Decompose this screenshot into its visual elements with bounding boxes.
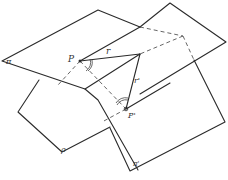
plane-pi — [2, 10, 140, 89]
plane-rho — [18, 80, 138, 170]
angle-arc-p-prime — [117, 100, 128, 105]
label-plane-rho: ρ — [60, 145, 66, 154]
label-p: P — [67, 54, 75, 64]
label-r: r — [106, 46, 111, 56]
geometry-diagram: P P' r r' π ρ π' — [0, 0, 228, 180]
point-p-dot — [79, 60, 82, 63]
label-r-prime: r' — [134, 76, 140, 85]
label-plane-pi: π — [5, 57, 12, 66]
label-plane-pi-prime: π' — [132, 160, 140, 168]
label-p-prime: P' — [127, 111, 136, 120]
plane-pi-prime — [110, 3, 226, 171]
